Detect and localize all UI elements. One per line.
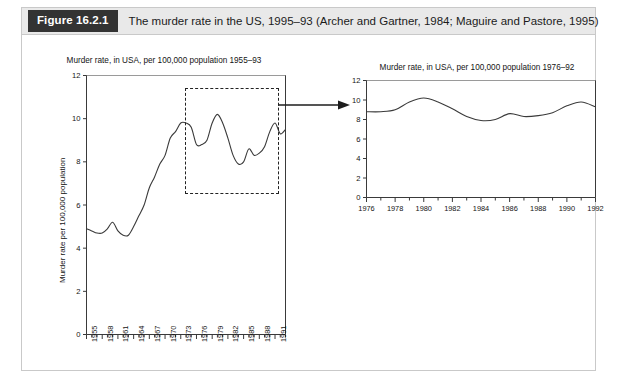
- xtick-label: 1985: [247, 325, 256, 341]
- ytick-label: 0: [63, 330, 81, 339]
- ytick-label: 8: [343, 115, 361, 124]
- xtick-label: 1955: [90, 325, 99, 341]
- xtick-label: 1984: [470, 204, 492, 213]
- xtick-label: 1992: [585, 204, 607, 213]
- xtick-label: 1986: [499, 204, 521, 213]
- ytick-label: 6: [343, 135, 361, 144]
- ytick-label: 10: [343, 96, 361, 105]
- xtick-label: 1958: [106, 325, 115, 341]
- right-chart-plot-area: [22, 8, 619, 258]
- xtick-label: 1979: [216, 325, 225, 341]
- xtick-label: 1961: [121, 325, 130, 341]
- xtick-label: 1964: [137, 325, 146, 341]
- xtick-label: 1973: [184, 325, 193, 341]
- xtick-label: 1991: [279, 325, 288, 341]
- xtick-label: 1988: [527, 204, 549, 213]
- xtick-label: 1976: [200, 325, 209, 341]
- xtick-label: 1982: [441, 204, 463, 213]
- ytick-label: 12: [343, 76, 361, 85]
- ytick-label: 0: [343, 193, 361, 202]
- xtick-label: 1988: [263, 325, 272, 341]
- xtick-label: 1978: [384, 204, 406, 213]
- xtick-label: 1967: [153, 325, 162, 341]
- xtick-label: 1976: [356, 204, 378, 213]
- xtick-label: 1982: [231, 325, 240, 341]
- ytick-label: 2: [343, 174, 361, 183]
- ytick-label: 2: [63, 287, 81, 296]
- xtick-label: 1970: [169, 325, 178, 341]
- xtick-label: 1980: [413, 204, 435, 213]
- xtick-label: 1990: [556, 204, 578, 213]
- figure-frame: Figure 16.2.1 The murder rate in the US,…: [21, 7, 596, 371]
- ytick-label: 4: [343, 154, 361, 163]
- chart-right-1976-1992: Murder rate, in USA, per 100,000 populat…: [22, 8, 619, 258]
